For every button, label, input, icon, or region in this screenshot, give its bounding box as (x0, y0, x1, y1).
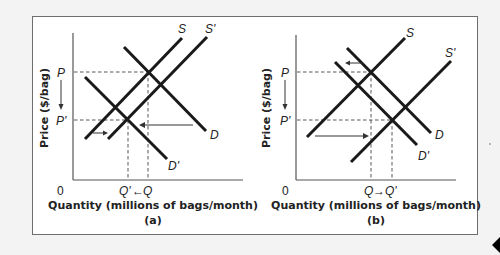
price-drop-arrow (59, 80, 64, 110)
origin-label: 0 (57, 184, 64, 198)
label-q-prime: Q' (119, 184, 131, 198)
label-d-prime: D' (168, 159, 180, 173)
origin-label: 0 (282, 184, 289, 198)
x-axis-label: Quantity (millions of bags/month) (271, 199, 481, 212)
y-axis-label: Price ($/bag) (260, 68, 273, 148)
panel-b: S S' D D' P P' 0 Q → Q' Quantity (millio… (260, 26, 481, 227)
label-p: P (57, 66, 65, 80)
label-s: S (406, 26, 414, 40)
panel-caption: (a) (144, 214, 161, 227)
label-d-prime: D' (418, 149, 430, 163)
label-q-prime: Q' (385, 184, 397, 198)
demand-curve-d-prime (335, 62, 417, 145)
panel-caption: (b) (367, 214, 385, 227)
label-s: S (178, 22, 186, 36)
label-s-prime: S' (445, 46, 456, 60)
price-drop-arrow (283, 80, 288, 110)
label-p-prime: P' (280, 114, 291, 128)
quantity-shift-arrow: → (373, 184, 385, 198)
label-q: Q (143, 184, 152, 198)
supply-shift-arrow (315, 133, 369, 139)
label-q: Q (364, 184, 373, 198)
page-dot (489, 143, 491, 145)
x-axis-label: Quantity (millions of bags/month) (48, 199, 258, 212)
supply-demand-figure: S S' D D' P P' 0 Q' ← Q Quantity (millio… (0, 0, 500, 255)
panel-a: S S' D D' P P' 0 Q' ← Q Quantity (millio… (38, 22, 258, 227)
label-s-prime: S' (205, 22, 216, 36)
page-turn-marker-icon (492, 237, 500, 253)
label-d: D (210, 128, 219, 142)
demand-curve-d (124, 47, 206, 131)
supply-shift-arrow (93, 131, 108, 136)
supply-curve-s-prime (108, 37, 207, 139)
label-p: P (281, 66, 289, 80)
label-d: D (435, 128, 444, 142)
demand-shift-arrow (139, 122, 193, 128)
label-p-prime: P' (56, 114, 67, 128)
y-axis-label: Price ($/bag) (38, 68, 51, 148)
